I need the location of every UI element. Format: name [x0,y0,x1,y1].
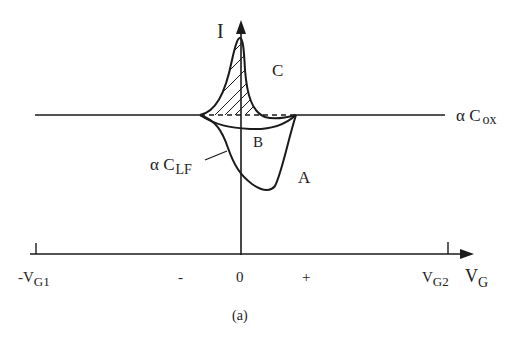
figure-caption: (a) [232,308,248,324]
x-axis-arrow-icon [460,249,474,259]
cv-curve-diagram: I C B A α Cox α CLF -VG1 - 0 + VG2 VG (a… [0,0,525,345]
y-axis-label: I [217,20,224,42]
tick-label-zero: 0 [236,269,244,285]
x-axis-label: VG [465,266,488,290]
tick-label-minus: - [178,269,183,285]
y-axis-arrow-icon [236,20,246,34]
cox-label: α Cox [456,106,497,127]
clf-label: α CLF [150,155,192,177]
tick-label-plus: + [302,269,310,285]
curve-b-label: B [253,134,263,150]
hatched-region [175,40,300,130]
tick-label-vg2: VG2 [422,269,449,289]
figure-canvas: I C B A α Cox α CLF -VG1 - 0 + VG2 VG (a… [0,0,525,345]
curve-a-label: A [298,168,311,187]
tick-label-vg1: -VG1 [18,269,50,289]
curve-a [200,115,296,190]
curve-c-label: C [272,61,283,80]
clf-leader-line [205,151,227,160]
